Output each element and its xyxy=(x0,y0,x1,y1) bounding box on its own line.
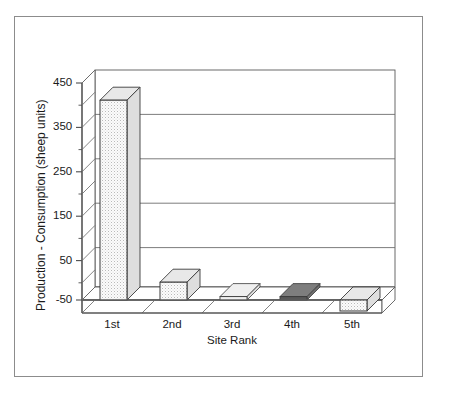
xtick-label-2nd: 2nd xyxy=(152,318,192,330)
plot-left-wall xyxy=(82,70,95,300)
xtick-label-5th: 5th xyxy=(332,318,372,330)
ytick-label-450: 450 xyxy=(42,76,72,88)
xtick-label-3rd: 3rd xyxy=(212,318,252,330)
xtick-label-1st: 1st xyxy=(92,318,132,330)
y-axis-major-ticks xyxy=(76,83,82,300)
figure-root: 450 350 250 150 50 -50 1st 2nd 3rd 4th 5… xyxy=(0,0,451,398)
bar-1st[interactable] xyxy=(100,87,140,300)
xtick-label-4th: 4th xyxy=(272,318,312,330)
y-axis-title: Production - Consumption (sheep units) xyxy=(34,100,48,311)
x-axis-title: Site Rank xyxy=(132,334,332,346)
